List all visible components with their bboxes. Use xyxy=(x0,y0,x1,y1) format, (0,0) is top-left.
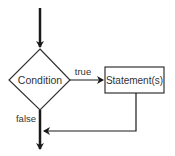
return-arrow xyxy=(44,93,136,131)
false-label: false xyxy=(16,113,36,124)
true-branch-arrow: true xyxy=(70,66,103,80)
statement-box: Statement(s) xyxy=(105,67,164,93)
condition-diamond: Condition xyxy=(9,49,70,110)
false-branch-arrow: false xyxy=(16,110,40,149)
true-label: true xyxy=(75,66,91,77)
statement-label: Statement(s) xyxy=(106,75,163,86)
condition-label: Condition xyxy=(18,74,63,86)
flowchart-diagram: Condition true Statement(s) false xyxy=(0,0,175,156)
